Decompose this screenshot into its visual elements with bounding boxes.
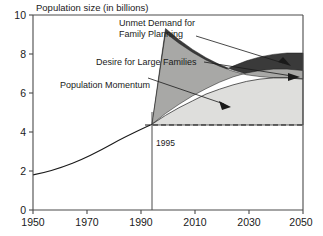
y-tick-label-0: 0 bbox=[20, 204, 26, 216]
y-tick-label-6: 6 bbox=[20, 87, 26, 99]
y-tick-label-10: 10 bbox=[14, 9, 26, 21]
annotation-population-momentum: Population Momentum bbox=[60, 80, 150, 90]
x-tick-label-1990: 1990 bbox=[129, 216, 153, 228]
y-tick-label-2: 2 bbox=[20, 165, 26, 177]
x-tick-label-1970: 1970 bbox=[75, 216, 99, 228]
y-tick-label-4: 4 bbox=[20, 126, 26, 138]
annotation-unmet-demand-line2: Family Planning bbox=[119, 29, 183, 39]
chart-title: Population size (in billions) bbox=[36, 2, 148, 13]
x-tick-label-2050: 2050 bbox=[289, 216, 313, 228]
annotation-desire-for-large-families: Desire for Large Families bbox=[96, 57, 197, 67]
x-tick-label-2030: 2030 bbox=[237, 216, 261, 228]
annotation-unmet-demand-line1: Unmet Demand for bbox=[119, 18, 195, 28]
y-tick-label-8: 8 bbox=[20, 48, 26, 60]
population-projection-chart: 0 2 4 6 8 10 1950 1970 1990 2010 2030 20… bbox=[0, 0, 323, 236]
marker-label-1995: 1995 bbox=[156, 138, 175, 148]
x-tick-label-2010: 2010 bbox=[183, 216, 207, 228]
x-tick-label-1950: 1950 bbox=[21, 216, 45, 228]
chart-canvas: 0 2 4 6 8 10 1950 1970 1990 2010 2030 20… bbox=[0, 0, 323, 236]
